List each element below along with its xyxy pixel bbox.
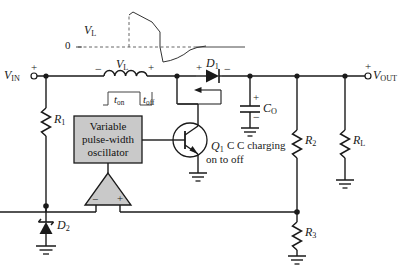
resistor-R2 bbox=[293, 76, 302, 215]
resistor-R3 bbox=[288, 212, 306, 264]
inductor-vl-label: VL bbox=[116, 58, 128, 73]
transistor-q1-note: on to off bbox=[206, 154, 244, 166]
capacitor-co-label: CO bbox=[263, 102, 277, 117]
diode-d1-minus-sign: − bbox=[224, 63, 231, 75]
diode-D1 bbox=[178, 69, 222, 104]
inductor-minus-sign: − bbox=[95, 63, 102, 75]
transistor-Q1 bbox=[172, 76, 207, 181]
inductor-voltage-waveform bbox=[76, 12, 245, 62]
resistor-r3-label: R3 bbox=[305, 226, 316, 241]
resistor-r2-label: R2 bbox=[305, 134, 316, 149]
resistor-rl-label: RL bbox=[353, 134, 365, 149]
vout-label: VOUT bbox=[373, 69, 397, 84]
resistor-R1 bbox=[42, 76, 51, 209]
t-off-label: toff bbox=[143, 94, 154, 107]
waveform-vl-label: VL bbox=[84, 24, 96, 39]
oscillator-block-label: Variable pulse-width oscillator bbox=[74, 120, 142, 159]
diode-d2-label: D2 bbox=[57, 219, 70, 234]
vin-polarity-sign: + bbox=[31, 62, 37, 73]
comparator-plus-sign: + bbox=[117, 193, 123, 204]
capacitor-CO bbox=[240, 76, 260, 136]
waveform-zero-label: 0 bbox=[65, 40, 71, 52]
oscillator-line-2: pulse-width bbox=[74, 133, 142, 146]
switching-regulator-schematic: VL 0 VIN + VOUT + VL − + D1 + − CO + − R… bbox=[0, 0, 400, 271]
t-on-label: ton bbox=[114, 94, 124, 107]
diode-d1-label: D1 bbox=[206, 57, 219, 72]
oscillator-line-1: Variable bbox=[74, 120, 142, 133]
comparator-minus-sign: − bbox=[92, 194, 98, 205]
inductor-plus-sign: + bbox=[148, 62, 154, 73]
resistor-RL-load bbox=[336, 76, 354, 188]
vout-polarity-sign: + bbox=[365, 61, 371, 72]
vin-label: VIN bbox=[4, 69, 20, 84]
diode-d1-plus-sign: + bbox=[196, 62, 202, 73]
capacitor-co-plus-sign: + bbox=[253, 92, 259, 103]
oscillator-line-3: oscillator bbox=[74, 146, 142, 159]
capacitor-co-minus-sign: − bbox=[253, 111, 260, 123]
resistor-r1-label: R1 bbox=[54, 113, 65, 128]
diode-D2-zener bbox=[36, 206, 56, 254]
capacitor-charging-annotation: C C charging bbox=[227, 140, 285, 152]
